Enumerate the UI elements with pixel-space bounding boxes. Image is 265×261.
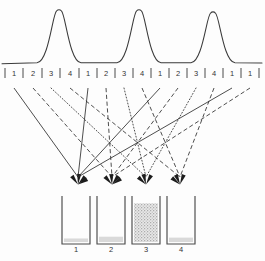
routing-line-88-to-78: [78, 88, 88, 177]
beaker-contents-4: [169, 238, 193, 242]
fraction-tick-label-7: 4: [140, 69, 144, 78]
fraction-tick-label-4: 1: [86, 69, 90, 78]
routing-line-160-to-78: [78, 88, 160, 177]
routing-line-232-to-78: [78, 88, 232, 177]
fraction-tick-label-6: 3: [122, 69, 126, 78]
beaker-4: [167, 196, 195, 244]
fraction-tick-label-11: 4: [212, 69, 216, 78]
fraction-tick-label-10: 3: [194, 69, 198, 78]
routing-line-51-to-146: [51, 88, 146, 177]
routing-line-106-to-112: [106, 88, 112, 177]
routing-arrowhead-0: [70, 175, 78, 185]
fraction-tick-label-5: 2: [104, 69, 108, 78]
routing-line-14-to-78: [14, 88, 78, 177]
fraction-tick-label-12: 1: [230, 69, 234, 78]
routing-line-250-to-112: [112, 88, 250, 177]
fraction-tick-label-2: 3: [49, 69, 53, 78]
fraction-tick-label-9: 2: [176, 69, 180, 78]
routing-line-124-to-146: [124, 88, 146, 177]
beaker-contents-1: [64, 238, 88, 242]
figure-root: 12341234123411 1234 Three chromatographi…: [0, 0, 265, 261]
beaker-1: [62, 196, 90, 244]
routing-line-33-to-112: [33, 88, 112, 177]
routing-line-196-to-146: [146, 88, 196, 177]
fraction-tick-label-3: 4: [68, 69, 72, 78]
beaker-label-1: 1: [74, 245, 78, 254]
routing-arrowhead-10: [146, 174, 153, 184]
fraction-routing-lines: [14, 88, 250, 185]
fraction-tick-label-8: 1: [158, 69, 162, 78]
beaker-contents-3: [134, 203, 158, 242]
fraction-tick-label-1: 2: [31, 69, 35, 78]
fraction-tick-label-0: 1: [12, 69, 16, 78]
chromatogram-trace-group: [2, 10, 262, 64]
fraction-collection-diagram: 12341234123411 1234: [0, 0, 265, 261]
fraction-tick-label-13: 1: [248, 69, 252, 78]
beaker-label-2: 2: [109, 245, 113, 254]
beaker-label-4: 4: [179, 245, 183, 254]
beaker-label-3: 3: [144, 245, 148, 254]
routing-line-178-to-112: [112, 88, 178, 177]
collection-beaker-row: 1234: [62, 196, 195, 254]
detector-trace: [2, 10, 262, 64]
routing-arrowhead-11: [180, 174, 186, 185]
beaker-contents-2: [99, 237, 123, 242]
fraction-tick-axis: 12341234123411: [5, 68, 259, 78]
